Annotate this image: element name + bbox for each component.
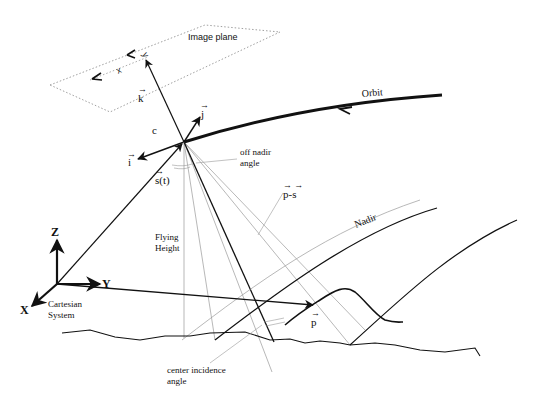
k-vector-arrow-icon: → (138, 84, 147, 94)
i-vector (138, 142, 184, 159)
j-vector-arrow-icon: → (200, 100, 209, 110)
incidence-arc (264, 318, 284, 322)
center-incidence-label-1: center incidence (167, 365, 226, 375)
image-x-arrow-icon (92, 73, 102, 80)
image-x-label: x (115, 65, 124, 76)
imaging-geometry-diagram: x y Image plane k → c Orbit j → i → s(t)… (0, 0, 538, 410)
image-plane: x y Image plane (50, 25, 280, 112)
p-minus-s-arrow-icon: → → (283, 180, 303, 190)
i-vector-arrow-icon: → (127, 149, 136, 159)
off-nadir-arc (172, 164, 192, 166)
flying-height-label-2: Height (155, 243, 180, 253)
orbit-label: Orbit (361, 86, 383, 99)
terrain-hill (285, 289, 403, 325)
cartesian-label-2: System (48, 310, 75, 320)
flying-height-label-1: Flying (155, 232, 179, 242)
swath-edge-line (350, 220, 517, 345)
image-plane-label: Image plane (188, 32, 238, 42)
center-incidence-leader (210, 325, 262, 363)
center-incidence-label-2: angle (167, 376, 187, 386)
z-axis-label: Z (51, 225, 59, 239)
center-view-ray (184, 142, 274, 342)
s-t-arrow-icon: → (155, 166, 164, 176)
s-t-vector (57, 144, 182, 284)
orbit-direction-arrow-icon (340, 107, 352, 114)
nadir-label: Nadir (353, 211, 379, 230)
view-rays (184, 142, 365, 372)
p-minus-s-leader (258, 193, 283, 235)
c-label: c (152, 124, 157, 136)
x-axis-label: X (20, 303, 29, 317)
cartesian-label-1: Cartesian (48, 299, 82, 309)
nadir-track (215, 208, 437, 340)
image-y-arrow-icon (127, 50, 135, 58)
p-vector-arrow-icon: → (311, 308, 320, 318)
off-nadir-label-2: angle (240, 158, 260, 168)
p-vector (57, 284, 313, 305)
off-nadir-arc-2 (174, 167, 190, 169)
orbit-path (184, 95, 442, 142)
incidence-arc-2 (266, 322, 285, 326)
off-nadir-label-1: off nadir (240, 147, 271, 157)
